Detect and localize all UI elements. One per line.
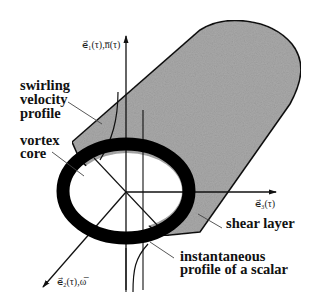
label-vortex-core: vortex core [20,132,63,161]
vortex-core-interior [72,153,182,229]
leader-swirling [68,102,102,124]
label-shear-layer: shear layer [226,215,295,231]
axis-label-e3: e⃗₃(τ) [255,198,275,210]
axis-label-e1-n: e⃗₁(τ),n̅(τ) [82,39,120,51]
scalar-profile-curve [133,244,148,292]
label-scalar-profile: instantaneous profile of a scalar [180,248,289,277]
leader-scalar [150,242,174,258]
vortex-tube-diagram: swirling velocity profile vortex core sh… [0,0,316,307]
axis-label-e2-omega: e⃗₂(τ),ω̅ [57,276,89,288]
label-swirling: swirling velocity profile [20,77,74,121]
